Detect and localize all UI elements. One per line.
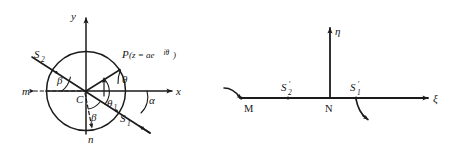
theta-c-label-subscript: 1 <box>114 103 118 112</box>
beta-lower-arc <box>89 102 101 109</box>
theta-label: θ <box>122 73 128 85</box>
s1-prime-label-group: S 1 ′ <box>350 80 361 97</box>
crack-line-arrowhead <box>140 126 151 133</box>
s1-prime-curve-arrowhead <box>363 116 368 120</box>
s1-label: S <box>120 112 126 124</box>
p-point-label-group: P (z = ae iθ ) <box>121 48 176 61</box>
s2-prime-point-dot <box>286 96 289 99</box>
figure-container: y x C S 2 S 1 <box>0 0 455 159</box>
p-point-label: P <box>121 48 129 60</box>
right-panel-group: η ξ M S 2 ′ N S 1 ′ <box>224 25 438 120</box>
s2-label-subscript: 2 <box>41 55 45 64</box>
p-expression-close: ) <box>172 50 176 60</box>
x-axis-label: x <box>175 85 181 97</box>
m-label: m <box>22 85 30 97</box>
p-expression-exponent: iθ <box>164 48 170 57</box>
xi-axis-label: ξ <box>433 92 438 105</box>
s2-prime-label: S <box>281 81 287 93</box>
center-label: C <box>76 93 84 105</box>
theta-c-label: θ <box>107 97 113 109</box>
m-point-label: M <box>244 103 254 114</box>
eta-axis-label: η <box>335 25 340 37</box>
y-axis-label: y <box>70 10 76 22</box>
s2-prime-label-group: S 2 ′ <box>281 80 292 97</box>
s2-label: S <box>34 48 40 60</box>
m-point-dot <box>240 97 243 100</box>
p-expression-open: (z = ae <box>129 50 155 60</box>
left-panel-group: y x C S 2 S 1 <box>22 10 181 145</box>
s1-prime-outgoing-curve <box>356 99 366 118</box>
physics-diagram-svg: y x C S 2 S 1 <box>0 0 455 159</box>
radius-line-cp <box>86 70 120 91</box>
beta-lower-label: β <box>90 111 97 123</box>
theta-c-label-group: θ 1 <box>107 97 117 112</box>
s1-prime-label: S <box>350 81 356 93</box>
n-label: n <box>88 133 94 145</box>
s1-label-subscript: 1 <box>127 119 131 128</box>
alpha-label: α <box>149 94 155 106</box>
theta-arc <box>118 71 120 84</box>
s1-label-group: S 1 <box>120 112 131 128</box>
n-point-label: N <box>325 103 333 114</box>
beta-upper-label: β <box>56 74 63 86</box>
alpha-arc <box>141 91 148 113</box>
